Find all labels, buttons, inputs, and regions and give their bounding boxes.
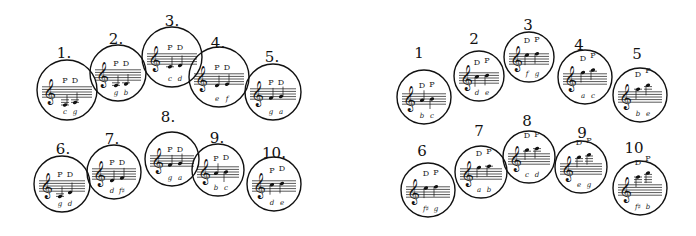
exercise-5: 5𝄞DbPe bbox=[613, 45, 667, 122]
note-letter: a bbox=[477, 186, 481, 194]
treble-clef-icon: 𝄞 bbox=[195, 66, 208, 92]
exercise-4: 4𝄞DaPc bbox=[558, 36, 612, 104]
treble-clef-icon: 𝄞 bbox=[561, 156, 574, 182]
exercise-3: 3𝄞DfPg bbox=[504, 16, 554, 82]
finger-label: D bbox=[576, 138, 582, 147]
treble-clef-icon: 𝄞 bbox=[619, 177, 632, 203]
exercise-4: 4.𝄞PeDf bbox=[189, 34, 249, 107]
finger-label: P bbox=[590, 51, 596, 60]
finger-label: P bbox=[113, 59, 119, 68]
note: Pb bbox=[213, 154, 219, 192]
exercise-7: 7.𝄞PdDf♯ bbox=[87, 130, 141, 199]
note-letter: e bbox=[646, 110, 650, 118]
finger-label: D bbox=[278, 78, 284, 87]
note-letter: f bbox=[525, 70, 530, 78]
finger-label: D bbox=[580, 54, 586, 63]
note-letter: b bbox=[636, 110, 641, 118]
exercise-2: 2𝄞DdPe bbox=[454, 30, 504, 101]
exercise-number: 2 bbox=[469, 30, 479, 48]
note: Dd bbox=[474, 58, 480, 97]
finger-label: P bbox=[268, 78, 274, 87]
finger-label: D bbox=[474, 58, 480, 67]
finger-label: D bbox=[72, 76, 78, 85]
finger-label: D bbox=[476, 149, 482, 158]
exercise-1: 1.𝄞PcDg bbox=[37, 44, 97, 120]
finger-label: P bbox=[433, 168, 439, 177]
finger-label: P bbox=[167, 145, 173, 154]
note: Dd bbox=[177, 43, 183, 83]
note: Df♯ bbox=[422, 169, 429, 213]
note: Df bbox=[524, 36, 530, 78]
finger-label: D bbox=[177, 43, 183, 52]
treble-clef-icon: 𝄞 bbox=[509, 146, 522, 172]
exercise-number: 3 bbox=[523, 16, 533, 34]
finger-label: D bbox=[119, 158, 125, 167]
note-letter: a bbox=[581, 92, 585, 100]
note-letter: e bbox=[577, 181, 581, 189]
finger-label: P bbox=[486, 147, 492, 156]
treble-clef-icon: 𝄞 bbox=[460, 65, 473, 91]
finger-label: D bbox=[224, 63, 230, 72]
exercise-number: 6. bbox=[56, 140, 70, 158]
note-letter: g bbox=[269, 108, 274, 116]
music-notation-figure: 1.𝄞PcDg2.𝄞PgDb3.𝄞PcDd4.𝄞PeDf5.𝄞PgDa6.𝄞Pg… bbox=[0, 0, 696, 236]
exercise-3: 3.𝄞PcDd bbox=[142, 12, 202, 87]
note-letter: d bbox=[110, 187, 115, 195]
note: Db bbox=[122, 59, 130, 97]
exercise-number: 1. bbox=[57, 44, 71, 62]
note-letter: b bbox=[214, 184, 219, 192]
note: Pb bbox=[485, 147, 493, 194]
finger-label: P bbox=[645, 66, 651, 75]
note: Pg bbox=[56, 170, 64, 208]
finger-label: P bbox=[213, 154, 219, 163]
note: Pc bbox=[61, 76, 69, 116]
note-letter: g bbox=[168, 174, 173, 182]
exercise-number: 8 bbox=[522, 112, 532, 130]
note-letter: d bbox=[535, 171, 540, 179]
note: Dc bbox=[223, 153, 229, 192]
finger-label: P bbox=[534, 35, 540, 44]
treble-clef-icon: 𝄞 bbox=[198, 159, 211, 185]
finger-label: P bbox=[109, 158, 115, 167]
note-letter: f bbox=[225, 95, 230, 103]
treble-clef-icon: 𝄞 bbox=[253, 173, 266, 199]
finger-label: P bbox=[214, 63, 220, 72]
exercise-number: 10. bbox=[262, 144, 286, 162]
note: Pe bbox=[484, 56, 490, 97]
note-letter: c bbox=[168, 75, 172, 83]
note-letter: b bbox=[646, 203, 651, 211]
note: Dd bbox=[67, 170, 73, 208]
finger-label: D bbox=[524, 131, 530, 140]
finger-label: D bbox=[524, 36, 530, 45]
treble-clef-icon: 𝄞 bbox=[40, 173, 53, 199]
treble-clef-icon: 𝄞 bbox=[96, 62, 109, 88]
exercise-number: 8. bbox=[161, 108, 175, 126]
note: Dg bbox=[71, 76, 79, 116]
finger-label: P bbox=[429, 80, 435, 89]
treble-clef-icon: 𝄞 bbox=[403, 86, 416, 112]
exercise-1: 1𝄞DbPc bbox=[397, 44, 451, 124]
note-letter: g bbox=[587, 181, 592, 189]
exercise-number: 6 bbox=[417, 142, 427, 160]
note-letter: c bbox=[224, 184, 228, 192]
note-letter: e bbox=[485, 89, 489, 97]
exercise-8: 8.𝄞PgDa bbox=[145, 108, 199, 186]
finger-label: D bbox=[635, 158, 641, 167]
note: Db bbox=[419, 81, 425, 120]
finger-label: P bbox=[62, 76, 68, 85]
note-letter: c bbox=[430, 112, 434, 120]
note: Pe bbox=[214, 63, 220, 103]
note: Pc bbox=[589, 51, 597, 100]
note-letter: e bbox=[215, 95, 219, 103]
exercise-number: 4. bbox=[211, 34, 225, 52]
exercise-number: 7 bbox=[474, 122, 484, 140]
note: Pg bbox=[268, 78, 274, 116]
right-exercise-group: 1𝄞DbPc2𝄞DdPe3𝄞DfPg4𝄞DaPc5𝄞DbPe6𝄞Df♯Pg7𝄞D… bbox=[397, 16, 667, 217]
exercise-6: 6𝄞Df♯Pg bbox=[401, 142, 455, 217]
note: Pc bbox=[429, 80, 435, 120]
note: Pd bbox=[269, 166, 275, 207]
note-letter: g bbox=[58, 200, 63, 208]
note-letter: b bbox=[420, 112, 425, 120]
note-letter: a bbox=[178, 174, 182, 182]
finger-label: P bbox=[534, 130, 540, 139]
